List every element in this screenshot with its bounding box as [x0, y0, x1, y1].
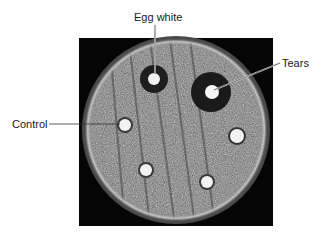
control-disc: [117, 117, 133, 133]
right-disc: [228, 127, 246, 145]
tears-disc: [191, 72, 231, 112]
bottom-left-disc: [138, 162, 154, 178]
label-egg-white: Egg white: [134, 11, 182, 23]
petri-dish-illustration: [0, 0, 319, 235]
label-control: Control: [12, 118, 47, 130]
egg-white-disc: [140, 65, 168, 93]
bottom-right-disc: [199, 174, 215, 190]
label-tears: Tears: [282, 57, 309, 69]
